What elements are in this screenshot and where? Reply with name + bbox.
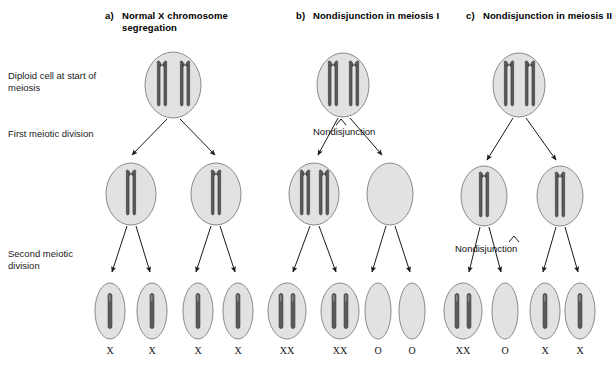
- panel-c-gamete-4: [565, 283, 595, 339]
- panel-c-diploid-cell: [493, 53, 545, 117]
- gamete-label-a-3: X: [183, 345, 213, 356]
- panel-b-meiosis1-cell-left: [289, 163, 339, 225]
- panel-a-arrows-meiosis-2: [112, 226, 235, 272]
- panel-c-gamete-3: [530, 283, 560, 339]
- panel-c-arrows-meiosis-1: [487, 118, 556, 160]
- meiosis-diagram: a) Normal X chromosome segregation b) No…: [0, 0, 612, 366]
- nondisjunction-leader-c: [509, 236, 519, 242]
- panel-b-gamete-3-empty: [365, 283, 391, 339]
- panel-a-gamete-2: [137, 283, 167, 339]
- panel-a-arrows-meiosis-1: [132, 119, 215, 155]
- gamete-label-a-1: X: [95, 345, 125, 356]
- gamete-label-b-2: XX: [323, 345, 357, 356]
- gamete-label-c-3: X: [530, 345, 560, 356]
- gamete-label-b-3: O: [363, 345, 393, 356]
- panel-b-arrows-meiosis-1: [318, 118, 382, 155]
- panel-c-gamete-1: [444, 283, 482, 339]
- gamete-label-a-4: X: [223, 345, 253, 356]
- gamete-label-b-1: XX: [270, 345, 304, 356]
- panel-b-arrows-meiosis-2: [293, 226, 410, 272]
- panel-c-arrows-meiosis-2: [469, 227, 578, 272]
- panel-a-meiosis1-cell-right: [191, 163, 241, 225]
- gamete-label-b-4: O: [397, 345, 427, 356]
- panel-b-diploid-cell: [317, 53, 369, 117]
- panel-c-meiosis1-cell-left: [461, 166, 507, 226]
- diagram-artwork: [0, 0, 612, 366]
- panel-a-diploid-cell: [145, 52, 201, 118]
- panel-b-gamete-2: [321, 283, 359, 339]
- panel-a-gamete-4: [223, 283, 253, 339]
- panel-a-gamete-1: [95, 283, 125, 339]
- panel-b-meiosis1-cell-right-empty: [367, 163, 413, 225]
- gamete-label-c-2: O: [490, 345, 520, 356]
- panel-a-gamete-3: [183, 283, 213, 339]
- gamete-label-a-2: X: [137, 345, 167, 356]
- panel-c-gamete-2-empty: [492, 283, 518, 339]
- panel-b-gamete-1: [268, 283, 306, 339]
- gamete-label-c-1: XX: [446, 345, 480, 356]
- panel-a-meiosis1-cell-left: [106, 163, 156, 225]
- panel-c-meiosis1-cell-right: [537, 166, 583, 226]
- gamete-label-c-4: X: [565, 345, 595, 356]
- panel-b-gamete-4-empty: [399, 283, 425, 339]
